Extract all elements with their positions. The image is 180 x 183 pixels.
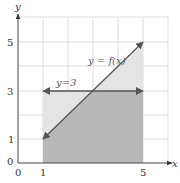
- y-tick-3: 3: [7, 86, 13, 97]
- y-tick-0: 0: [7, 156, 13, 167]
- y-tick-5: 5: [7, 37, 13, 48]
- x-tick-5: 5: [140, 167, 146, 178]
- annotation-y-equals-fx: y = f(x): [87, 55, 126, 66]
- x-axis-label: x: [172, 158, 178, 169]
- y-axis-label: y: [14, 1, 21, 12]
- annotation-y-equals-3: y=3: [55, 77, 76, 88]
- chart-area-between-curves: y x 5 3 1 0 0 1 5 y = f(x) y=3: [0, 0, 180, 183]
- x-tick-0: 0: [15, 167, 21, 178]
- x-tick-1: 1: [40, 167, 46, 178]
- y-tick-1: 1: [8, 134, 14, 145]
